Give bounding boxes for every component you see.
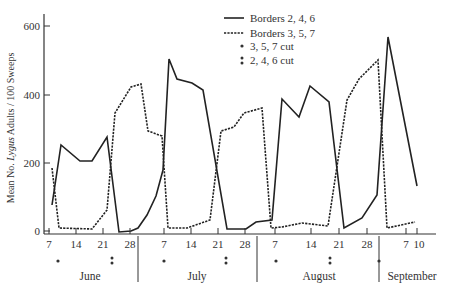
y-axis-label: Mean No. Lygus Adults / 100 Sweeps — [5, 53, 16, 204]
x-tick-aug-14: 14 — [306, 238, 318, 250]
legend-single-star-icon — [240, 44, 243, 47]
legend-dashed-label: Borders 3, 5, 7 — [250, 27, 316, 39]
cut-markers-2-4-6 — [111, 257, 332, 265]
x-tick-jun-14: 14 — [71, 238, 83, 250]
month-september: September — [387, 270, 436, 283]
x-tick-jul-21: 21 — [213, 238, 224, 250]
star-marker — [377, 259, 380, 262]
x-tick-aug-7: 7 — [272, 238, 278, 250]
legend-solid-label: Borders 2, 4, 6 — [250, 12, 316, 24]
series-borders-2-4-6 — [52, 37, 417, 232]
legend-single-star-label: 3, 5, 7 cut — [250, 40, 294, 52]
x-tick-jun-7: 7 — [46, 238, 52, 250]
x-tick-jul-28: 28 — [240, 238, 252, 250]
x-tick-jul-14: 14 — [186, 238, 198, 250]
x-tick-labels: 7 14 21 28 7 14 21 28 7 14 21 28 7 10 — [46, 238, 425, 250]
x-tick-sep-7: 7 — [403, 238, 409, 250]
series-borders-3-5-7 — [52, 60, 415, 229]
lygus-line-chart: 600 400 200 0 Mean No. Lygus Adults / 10… — [0, 0, 450, 290]
star-marker — [274, 259, 277, 262]
x-tick-jun-21: 21 — [98, 238, 109, 250]
legend-double-star-icon — [241, 57, 244, 60]
x-tick-sep-10: 10 — [414, 238, 426, 250]
x-tick-aug-21: 21 — [334, 238, 345, 250]
y-tick-200: 200 — [24, 157, 41, 169]
x-tick-aug-28: 28 — [362, 238, 374, 250]
star-marker — [56, 259, 59, 262]
legend-double-star-label: 2, 4, 6 cut — [250, 54, 294, 66]
y-tick-400: 400 — [24, 89, 41, 101]
legend: Borders 2, 4, 6 Borders 3, 5, 7 3, 5, 7 … — [224, 12, 316, 66]
month-june: June — [79, 270, 100, 282]
month-july: July — [187, 270, 206, 283]
cut-markers-3-5-7 — [56, 259, 380, 262]
month-august: August — [302, 270, 336, 283]
y-tick-600: 600 — [24, 20, 41, 32]
y-tick-0: 0 — [35, 225, 41, 237]
x-tick-jun-28: 28 — [125, 238, 137, 250]
x-tick-jul-7: 7 — [161, 238, 167, 250]
y-ticks: 600 400 200 0 — [24, 20, 51, 237]
star-marker — [162, 259, 165, 262]
